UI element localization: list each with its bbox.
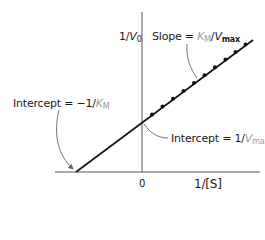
x-intercept-label-prefix: Intercept = −1/	[13, 97, 96, 110]
y-intercept-pointer-arrow	[144, 124, 168, 138]
slope-label-vmax-var: V	[214, 30, 221, 43]
data-point	[182, 89, 186, 93]
slope-label-prefix: Slope =	[152, 30, 197, 43]
x-axis-label: 1/[S]	[194, 178, 222, 190]
slope-label-km-sub: M	[204, 35, 211, 44]
data-point	[234, 50, 238, 54]
x-intercept-label-var: K	[96, 97, 103, 110]
data-point	[192, 81, 196, 85]
y-intercept-label-sub: max	[252, 137, 265, 146]
origin-tick-label: 0	[139, 179, 145, 189]
data-point	[171, 97, 175, 101]
slope-pointer-arrow	[187, 44, 197, 78]
y-axis-label-prefix: 1/	[119, 30, 129, 43]
slope-label: Slope = KM/Vmax	[152, 31, 240, 44]
y-axis-label-sub: 0	[137, 35, 142, 44]
data-point	[161, 105, 165, 109]
y-axis-label-var: V	[129, 30, 136, 43]
x-intercept-label: Intercept = −1/KM	[13, 98, 110, 111]
y-axis-label: 1/V0	[119, 31, 142, 44]
x-intercept-pointer-arrow	[57, 110, 73, 169]
data-point	[213, 65, 217, 69]
y-intercept-label: Intercept = 1/Vmax	[171, 133, 265, 146]
x-intercept-label-sub: M	[103, 102, 110, 111]
y-intercept-label-prefix: Intercept = 1/	[171, 132, 245, 145]
data-point	[244, 43, 248, 47]
slope-label-vmax-sub: max	[222, 35, 240, 44]
data-point	[150, 113, 154, 117]
data-point	[203, 73, 207, 77]
data-point	[224, 58, 228, 62]
